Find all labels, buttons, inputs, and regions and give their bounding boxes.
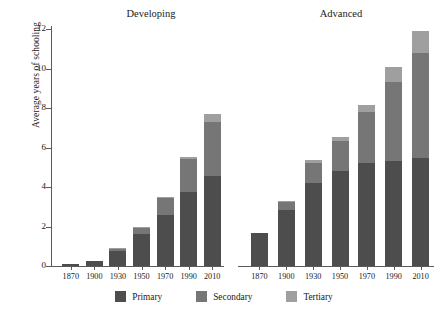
x-tick-mark [189,266,190,270]
bar-segment-secondary [204,122,221,176]
bar-segment-tertiary [204,114,221,122]
legend-label: Secondary [213,292,252,302]
bar-segment-tertiary [332,137,349,141]
bar-segment-secondary [305,163,322,183]
bar-segment-primary [412,158,429,266]
chart-legend: PrimarySecondaryTertiary [0,291,448,302]
y-tick-mark [46,187,51,188]
y-tick-label: 4 [26,182,46,191]
bar-segment-secondary [109,249,126,251]
x-tick-mark [118,266,119,270]
x-tick-label: 1990 [379,272,409,281]
stacked-bar [412,31,429,266]
legend-item-secondary: Secondary [196,291,252,302]
y-tick-label: 10 [26,64,46,73]
y-tick-label: 0 [26,261,46,270]
schooling-stacked-bar-chart: Average years of schooling Developing Ad… [0,0,448,317]
y-tick-mark [46,108,51,109]
bar-segment-primary [204,176,221,266]
stacked-bar [180,157,197,266]
y-tick-mark [46,29,51,30]
y-tick-label: 8 [26,103,46,112]
bar-segment-secondary [358,112,375,163]
x-tick-label: 1900 [271,272,301,281]
bar-segment-tertiary [305,160,322,163]
y-tick-mark [46,148,51,149]
legend-swatch-primary [115,291,126,302]
y-axis-line [51,26,52,267]
x-tick-mark [313,266,314,270]
x-tick-mark [421,266,422,270]
bar-segment-secondary [180,159,197,192]
x-tick-mark [286,266,287,270]
stacked-bar [385,67,402,266]
y-tick-mark [46,227,51,228]
bar-segment-primary [133,234,150,266]
panel-title-advanced: Advanced [286,8,396,19]
legend-label: Primary [132,292,162,302]
stacked-bar [278,201,295,266]
legend-swatch-secondary [196,291,207,302]
x-tick-mark [94,266,95,270]
bar-segment-secondary [332,141,349,172]
legend-item-primary: Primary [115,291,162,302]
y-tick-label: 12 [26,24,46,33]
y-tick-label: 2 [26,222,46,231]
stacked-bar [109,248,126,266]
legend-swatch-tertiary [286,291,297,302]
x-tick-mark [142,266,143,270]
bar-segment-secondary [133,227,150,235]
bar-segment-secondary [412,53,429,159]
x-tick-mark [259,266,260,270]
panel-title-developing: Developing [96,8,206,19]
bar-segment-tertiary [385,67,402,83]
bar-segment-secondary [385,82,402,161]
y-tick-label: 6 [26,143,46,152]
stacked-bar [157,197,174,266]
bar-segment-primary [385,161,402,266]
x-tick-mark [71,266,72,270]
bar-segment-primary [332,171,349,266]
bar-segment-tertiary [278,201,295,202]
x-tick-label: 1870 [244,272,274,281]
x-tick-mark [212,266,213,270]
stacked-bar [133,227,150,267]
bar-segment-primary [180,192,197,266]
x-axis-line-advanced [238,266,434,267]
x-tick-mark [340,266,341,270]
x-tick-label: 1930 [298,272,328,281]
bar-segment-primary [278,210,295,266]
bar-segment-tertiary [180,157,197,159]
legend-label: Tertiary [303,292,332,302]
bar-segment-secondary [157,198,174,215]
x-axis-line-developing [51,266,224,267]
stacked-bar [305,160,322,266]
bar-segment-tertiary [157,197,174,198]
bar-segment-primary [251,233,268,266]
bar-segment-primary [305,183,322,266]
bar-segment-secondary [278,202,295,210]
stacked-bar [251,233,268,266]
y-tick-mark [46,69,51,70]
x-tick-label: 2010 [197,272,227,281]
x-tick-label: 1950 [325,272,355,281]
bar-segment-tertiary [412,31,429,53]
legend-item-tertiary: Tertiary [286,291,332,302]
stacked-bar [204,114,221,266]
bar-segment-tertiary [358,105,375,112]
x-tick-mark [367,266,368,270]
stacked-bar [332,137,349,266]
stacked-bar [358,105,375,266]
bar-segment-primary [157,215,174,266]
x-tick-label: 2010 [406,272,436,281]
bar-segment-primary [109,251,126,266]
bar-segment-primary [358,163,375,266]
x-tick-label: 1970 [352,272,382,281]
x-tick-mark [394,266,395,270]
x-tick-mark [165,266,166,270]
